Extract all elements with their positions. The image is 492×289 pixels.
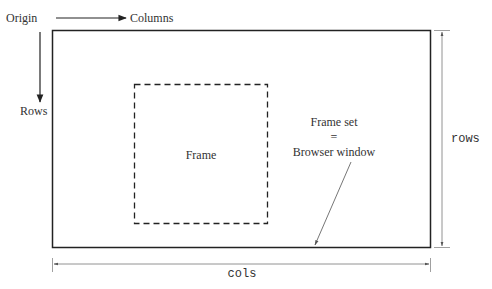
rows-dimension-label: rows	[451, 132, 480, 146]
frameset-label-line3: Browser window	[293, 145, 376, 159]
frameset-rectangle	[53, 31, 431, 248]
frameset-pointer-arrow	[315, 162, 351, 245]
cols-dimension-label: cols	[228, 267, 257, 281]
frameset-label-line2: =	[331, 130, 338, 144]
origin-label: Origin	[6, 11, 37, 25]
frameset-label-line1: Frame set	[311, 115, 359, 129]
columns-label: Columns	[130, 11, 174, 25]
frameset-diagram: Origin Columns Rows Frame Frame set = Br…	[0, 0, 492, 289]
rows-label: Rows	[20, 104, 48, 118]
frame-label: Frame	[186, 148, 217, 162]
